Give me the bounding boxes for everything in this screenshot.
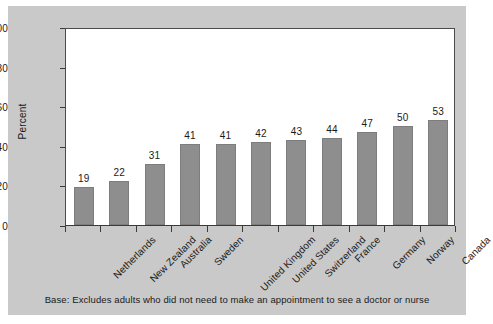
x-axis-tick-mark (207, 226, 208, 232)
bar (286, 140, 306, 225)
bar-value-label: 19 (70, 173, 98, 184)
x-axis-tick-mark (171, 226, 172, 232)
bar (109, 181, 129, 225)
x-axis-category-label: Canada (460, 234, 493, 267)
y-axis-title: Percent (17, 104, 28, 140)
bar-value-label: 41 (176, 130, 204, 141)
bar-value-label: 41 (212, 130, 240, 141)
bar (216, 144, 236, 225)
bar-value-label: 47 (353, 118, 381, 129)
x-axis-category-label: Norway (424, 234, 456, 266)
y-axis-tick-label: 20 (0, 181, 8, 192)
y-axis-tick-label: 80 (0, 62, 8, 73)
x-axis-tick-mark (65, 226, 66, 232)
bar (357, 132, 377, 225)
plot-area: 1922314141424344475053 (65, 28, 455, 226)
bars-container: 1922314141424344475053 (66, 29, 454, 225)
x-axis-tick-mark (100, 226, 101, 232)
bar (251, 142, 271, 225)
chart-footnote: Base: Excludes adults who did not need t… (8, 294, 466, 305)
bar-value-label: 44 (318, 124, 346, 135)
bar (180, 144, 200, 225)
x-axis-tick-mark (349, 226, 350, 232)
y-axis-tick-label: 100 (0, 23, 8, 34)
x-axis-tick-mark (242, 226, 243, 232)
bar-value-label: 53 (424, 106, 452, 117)
y-axis-tick-label: 60 (0, 102, 8, 113)
x-axis-tick-mark (384, 226, 385, 232)
bar (322, 138, 342, 225)
y-axis-tick-label: 0 (0, 221, 8, 232)
bar (145, 164, 165, 225)
bar-value-label: 31 (141, 150, 169, 161)
bar (428, 120, 448, 225)
x-axis-category-label: Sweden (212, 234, 246, 268)
bar (393, 126, 413, 225)
y-axis-tick-label: 40 (0, 141, 8, 152)
x-axis-category-label: Germany (391, 234, 428, 271)
x-axis-tick-mark (278, 226, 279, 232)
chart-panel: Percent 020406080100 1922314141424344475… (8, 6, 466, 315)
x-axis-tick-mark (455, 226, 456, 232)
x-axis-tick-mark (420, 226, 421, 232)
bar-value-label: 50 (389, 112, 417, 123)
bar-value-label: 22 (105, 167, 133, 178)
x-axis-tick-mark (313, 226, 314, 232)
x-axis-tick-mark (136, 226, 137, 232)
bar-value-label: 43 (282, 126, 310, 137)
bar-value-label: 42 (247, 128, 275, 139)
bar (74, 187, 94, 225)
